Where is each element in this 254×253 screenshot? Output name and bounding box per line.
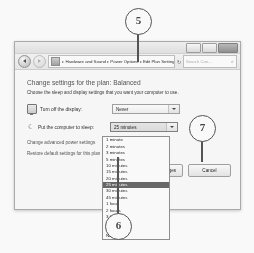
- window-controls: [186, 43, 238, 53]
- display-timeout-dropdown[interactable]: Never: [112, 104, 180, 114]
- setting-row-turn-off-display: Turn off the display: Never: [27, 104, 228, 114]
- cancel-button[interactable]: Cancel: [188, 164, 231, 177]
- back-button[interactable]: [18, 55, 31, 68]
- search-placeholder: Search Con...: [186, 59, 212, 64]
- setting-label-turn-off-display: Turn off the display:: [40, 107, 112, 112]
- forward-button[interactable]: [33, 55, 46, 68]
- display-timeout-value: Never: [116, 107, 128, 112]
- setting-label-sleep: Put the computer to sleep:: [38, 125, 110, 130]
- callout-leader-7: [201, 140, 203, 162]
- search-input[interactable]: Search Con... ⌕: [183, 55, 237, 68]
- minimize-button[interactable]: [186, 43, 201, 53]
- sleep-timeout-value: 25 minutes: [114, 125, 136, 130]
- callout-badge-6: 6: [105, 213, 132, 240]
- page-subtitle: Choose the sleep and display settings th…: [27, 90, 228, 95]
- chevron-down-icon[interactable]: [168, 105, 179, 113]
- page-title: Change settings for the plan: Balanced: [27, 79, 228, 86]
- address-bar: ▸ Hardware and Sound ▸ Power Options ▸ E…: [15, 54, 240, 70]
- callout-badge-7: 7: [189, 115, 216, 142]
- breadcrumb-item-edit-plan-settings[interactable]: Edit Plan Settings: [143, 59, 175, 64]
- breadcrumb-item-power-options[interactable]: Power Options: [110, 59, 138, 64]
- search-icon: ⌕: [231, 58, 234, 65]
- monitor-icon: [27, 104, 37, 114]
- control-panel-icon: [51, 57, 60, 66]
- window-titlebar: [15, 42, 240, 54]
- refresh-icon[interactable]: ↻: [177, 59, 181, 65]
- sleep-timeout-dropdown[interactable]: 25 minutes: [110, 122, 178, 132]
- breadcrumb-item-hardware-and-sound[interactable]: Hardware and Sound: [65, 59, 106, 64]
- chevron-down-icon[interactable]: [166, 123, 177, 131]
- close-button[interactable]: [218, 43, 238, 53]
- callout-badge-5: 5: [125, 8, 152, 35]
- breadcrumb[interactable]: ▸ Hardware and Sound ▸ Power Options ▸ E…: [48, 55, 175, 68]
- callout-leader-6: [117, 157, 119, 215]
- maximize-button[interactable]: [202, 43, 217, 53]
- moon-icon: ☾: [27, 123, 35, 131]
